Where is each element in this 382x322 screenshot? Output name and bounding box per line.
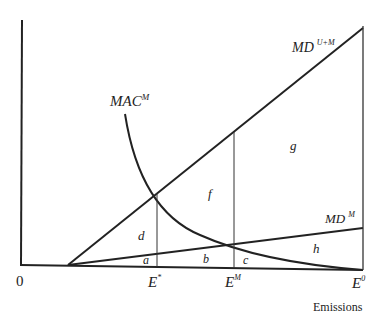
region-h: h [313, 241, 320, 256]
region-b: b [203, 252, 209, 266]
md-um-label: MDU+M [291, 38, 336, 55]
origin-label: 0 [16, 273, 24, 289]
x-axis-title: Emissions [313, 300, 363, 314]
e-0-label: E0 [351, 274, 365, 291]
mac-m-label: MACM [109, 92, 150, 109]
region-d: d [138, 228, 145, 243]
x-axis [20, 265, 363, 270]
mac-m-curve [125, 114, 363, 270]
md-um-curve [68, 28, 363, 265]
md-m-label: MDM [324, 210, 356, 226]
region-c: c [243, 253, 249, 267]
region-f: f [208, 186, 214, 201]
region-a: a [143, 253, 149, 267]
diagram-canvas: MACM MDU+M MDM a b c d f g h 0 E* EM E0 … [0, 0, 382, 322]
region-g: g [290, 138, 297, 153]
e-star-label: E* [147, 273, 161, 290]
e-m-label: EM [224, 273, 242, 290]
y-axis [21, 20, 22, 265]
